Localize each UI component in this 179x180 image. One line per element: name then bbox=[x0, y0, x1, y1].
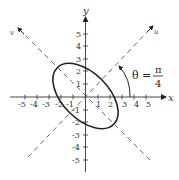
x-tick-label: -2 bbox=[55, 100, 63, 109]
rotated-axes-ellipse-diagram: -5 -4 -3 -2 -1 1 2 3 4 5 5 4 3 2 1 -1 -2… bbox=[0, 0, 179, 180]
theta-denominator: 4 bbox=[155, 78, 161, 89]
x-tick-label: 5 bbox=[146, 100, 151, 109]
y-tick-label: 5 bbox=[76, 30, 81, 39]
u-axis-label: u bbox=[154, 28, 159, 36]
u-axis bbox=[28, 26, 153, 157]
x-tick-label: 4 bbox=[134, 100, 139, 109]
y-tick-label: 2 bbox=[76, 67, 81, 76]
x-axis-label: x bbox=[168, 92, 174, 103]
y-tick-label: -5 bbox=[72, 156, 80, 165]
y-axis-label: y bbox=[82, 5, 89, 16]
x-tick-label: -4 bbox=[30, 100, 38, 109]
x-tick-label: 3 bbox=[122, 100, 127, 109]
theta-numerator: π bbox=[155, 64, 162, 75]
theta-annotation: θ = π 4 bbox=[132, 64, 163, 89]
x-tick-label: 2 bbox=[108, 100, 113, 109]
y-tick-label: -1 bbox=[72, 106, 80, 115]
y-tick-label: -2 bbox=[72, 118, 80, 127]
theta-lhs: θ = bbox=[132, 69, 151, 82]
y-axis bbox=[83, 17, 88, 172]
x-tick-labels: -5 -4 -3 -2 -1 1 2 3 4 5 bbox=[18, 100, 151, 109]
v-axis-label: v bbox=[10, 29, 14, 37]
y-tick-label: 1 bbox=[76, 80, 81, 89]
x-tick-label: -3 bbox=[42, 100, 50, 109]
y-tick-label: 3 bbox=[76, 55, 81, 64]
y-tick-label: 4 bbox=[76, 42, 81, 51]
x-axis bbox=[10, 95, 166, 100]
theta-angle-arc bbox=[119, 66, 130, 97]
y-tick-label: -4 bbox=[72, 143, 80, 152]
x-tick-label: 1 bbox=[96, 100, 101, 109]
y-tick-label: -3 bbox=[72, 131, 80, 140]
x-tick-label: -5 bbox=[18, 100, 26, 109]
